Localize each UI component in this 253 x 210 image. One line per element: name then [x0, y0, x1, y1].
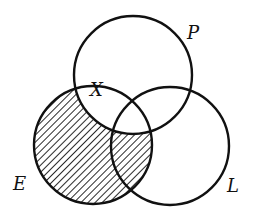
set-l-label: L	[226, 175, 239, 196]
venn-diagram: P E L X	[0, 0, 253, 210]
set-e-label: E	[12, 173, 26, 194]
point-x-label: X	[88, 79, 104, 100]
set-p-label: P	[186, 22, 200, 43]
